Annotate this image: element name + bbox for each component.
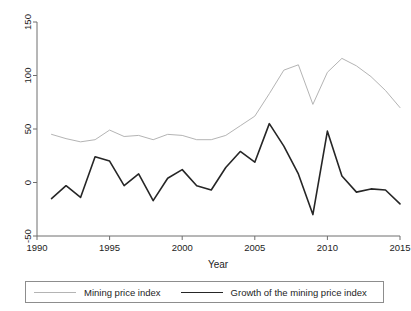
- y-tick-label: 150: [22, 14, 33, 30]
- series-line-mining-price-index: [52, 58, 400, 141]
- x-axis-ticks: 199019952000200520102015: [26, 236, 410, 253]
- y-tick-label: 50: [22, 124, 33, 135]
- y-axis-ticks: -50050100150: [22, 14, 37, 243]
- y-tick-label: -50: [22, 229, 33, 243]
- series-line-growth-of-mining-price-index: [52, 124, 400, 215]
- legend-swatch-mining-price-index: [34, 292, 76, 293]
- x-tick-label: 2000: [172, 242, 193, 253]
- x-tick-label: 2015: [389, 242, 410, 253]
- y-tick-label: 0: [22, 180, 33, 185]
- y-tick-label: 100: [22, 68, 33, 84]
- x-tick-label: 2010: [317, 242, 338, 253]
- line-chart-plot: -50050100150 199019952000200520102015 Ye…: [0, 0, 411, 311]
- legend-item-mining-price-index: Mining price index: [34, 287, 161, 298]
- x-tick-label: 2005: [244, 242, 265, 253]
- chart-figure: -50050100150 199019952000200520102015 Ye…: [0, 0, 411, 311]
- x-tick-label: 1995: [99, 242, 120, 253]
- x-axis-title: Year: [208, 259, 229, 270]
- legend-label-growth-of-mining-price-index: Growth of the mining price index: [231, 287, 367, 298]
- legend-swatch-growth-of-mining-price-index: [181, 292, 223, 293]
- x-tick-label: 1990: [26, 242, 47, 253]
- legend-label-mining-price-index: Mining price index: [84, 287, 161, 298]
- legend-item-growth-of-mining-price-index: Growth of the mining price index: [181, 287, 367, 298]
- chart-legend: Mining price index Growth of the mining …: [25, 281, 384, 303]
